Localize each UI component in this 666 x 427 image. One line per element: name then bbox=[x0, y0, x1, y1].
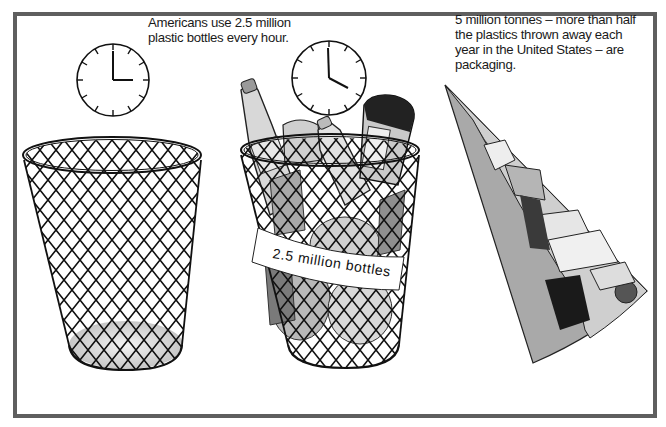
clock-icon-3-oclock bbox=[77, 44, 149, 116]
packaging-pie-wedge bbox=[445, 85, 647, 363]
empty-wastebasket bbox=[20, 130, 210, 380]
full-wastebasket: 2.5 million bottles bbox=[236, 78, 426, 380]
clock-icon-4-oclock bbox=[292, 41, 366, 115]
